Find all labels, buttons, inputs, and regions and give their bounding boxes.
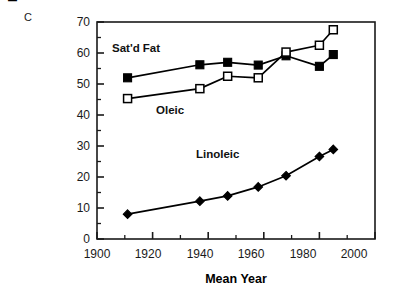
- data-point-marker: [124, 74, 132, 82]
- data-point-marker: [196, 61, 204, 69]
- data-point-marker: [329, 51, 337, 59]
- data-point-marker: [282, 48, 290, 56]
- data-point-marker: [123, 210, 132, 219]
- data-point-marker: [224, 72, 232, 80]
- chart-figure: C Fatty Acid Consumption Trends (g/day) …: [0, 0, 410, 294]
- data-point-marker: [254, 183, 263, 192]
- data-point-marker: [224, 58, 232, 66]
- data-point-marker: [282, 171, 291, 180]
- data-point-marker: [315, 41, 323, 49]
- data-point-marker: [329, 26, 337, 34]
- data-point-marker: [254, 61, 262, 69]
- data-point-marker: [315, 152, 324, 161]
- data-series-group: [123, 26, 337, 219]
- data-point-marker: [315, 62, 323, 70]
- series-linoleic: [123, 145, 337, 218]
- data-point-marker: [196, 197, 205, 206]
- data-point-marker: [124, 95, 132, 103]
- data-point-marker: [254, 74, 262, 82]
- data-point-marker: [329, 145, 338, 154]
- plot-area: [0, 0, 410, 294]
- series-line: [128, 149, 334, 214]
- data-point-marker: [223, 192, 232, 201]
- data-point-marker: [196, 85, 204, 93]
